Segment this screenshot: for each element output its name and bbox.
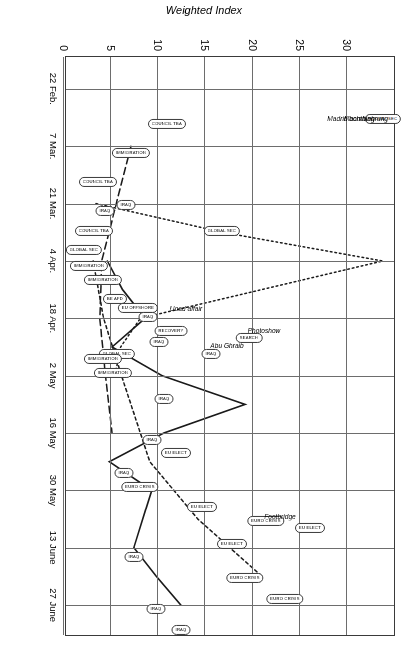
plot-area: 05101520253022 Feb.7 Mar.21 Mar.4 Apr.18… [65,56,395,636]
chart-annotation: Uoad affair [170,304,202,311]
x-axis-tick-label: 7 Mar. [48,133,66,159]
data-point-label: IRAQ [147,604,166,614]
data-point-label: IRAQ [124,552,143,562]
y-axis-tick-label: 20 [247,11,259,57]
chart-annotation: Abu Ghraib [210,342,243,349]
gridline-vertical [66,605,394,606]
x-axis-tick-label: 4 Apr. [48,249,66,273]
data-point-label: COUNCIL TBA [75,226,113,236]
gridline-vertical [66,433,394,434]
chart-figure: 05101520253022 Feb.7 Mar.21 Mar.4 Apr.18… [0,0,409,666]
gridline-vertical [66,318,394,319]
data-point-label: IRAQ [96,206,115,216]
chart-annotation: Madrid bombing [327,114,374,121]
gridline-vertical [66,204,394,205]
data-point-label: EURO CRISIS [122,482,159,492]
data-point-label: IRAQ [142,435,161,445]
data-point-label: GLOBAL SEC [66,245,102,255]
data-point-label: EURO CRISIS [266,594,303,604]
data-point-label: IMMIGRATION [84,275,122,285]
data-point-label: IRAQ [138,312,157,322]
x-axis-tick-label: 2 May [48,363,66,389]
y-axis-tick-label: 30 [341,11,353,57]
data-point-label: IRAQ [154,394,173,404]
data-point-label: EU ELECT [295,523,325,533]
data-point-label: IRAQ [202,349,221,359]
gridline-vertical [66,490,394,491]
x-axis-tick-label: 21 Mar. [48,188,66,220]
data-point-label: IMMIGRATION [69,261,107,271]
data-point-label: IMMIGRATION [94,368,132,378]
data-point-label: COUNCIL TBA [148,119,186,129]
chart-annotation: Footbridge [264,513,296,520]
data-point-label: RECOVERY [155,326,188,336]
y-axis-tick-label: 15 [199,11,211,57]
x-axis-tick-label: 18 Apr. [48,304,66,334]
data-point-label: EURO CRISIS [226,573,263,583]
data-point-label: EU ELECT [187,501,217,511]
chart-annotation: Photoshow [248,326,281,333]
y-axis-tick-label: 25 [294,11,306,57]
data-point-label: IMMIGRATION [112,148,150,158]
data-point-label: IRAQ [171,625,190,635]
gridline-vertical [66,89,394,90]
y-axis-tick-label: 10 [152,11,164,57]
data-point-label: EU ELECT [161,448,191,458]
y-axis-tick-label: 5 [105,11,117,57]
data-point-label: IRAQ [150,337,169,347]
x-axis-tick-label: 13 June [48,531,66,565]
y-axis-tick-label: 0 [58,11,70,57]
gridline-vertical [66,261,394,262]
data-point-label: IRAQ [117,200,136,210]
x-axis-tick-label: 27 June [48,588,66,622]
y-axis-label: Weighted Index [166,4,242,16]
data-point-label: COUNCIL TBA [79,177,117,187]
x-axis-tick-label: 30 May [48,475,66,506]
x-axis-tick-label: 16 May [48,417,66,448]
data-point-label: IMMIGRATION [84,354,122,364]
data-point-label: GLOBAL SEC [204,226,240,236]
data-point-label: EU ELECT [217,539,247,549]
data-point-label: IRAQ [115,468,134,478]
x-axis-tick-label: 22 Feb. [48,73,66,105]
